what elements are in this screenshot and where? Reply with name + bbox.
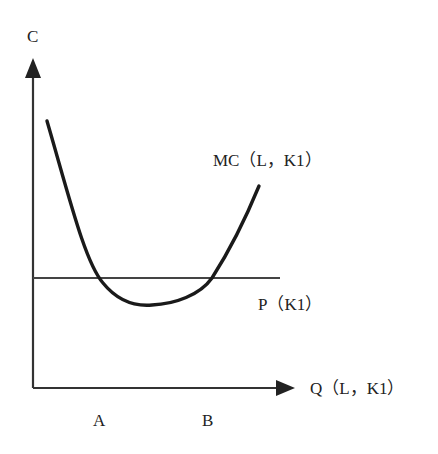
mc-curve-label: MC（L，K1） (213, 152, 322, 169)
marker-b: B (202, 412, 213, 429)
y-axis (25, 58, 41, 388)
y-axis-arrow-icon (25, 58, 41, 78)
x-axis-label: Q（L，K1） (310, 380, 404, 397)
marker-a: A (93, 412, 105, 429)
x-axis-arrow-icon (276, 380, 295, 396)
y-axis-label: C (27, 28, 38, 45)
x-axis (33, 380, 295, 396)
price-line-label: P（K1） (258, 296, 322, 313)
